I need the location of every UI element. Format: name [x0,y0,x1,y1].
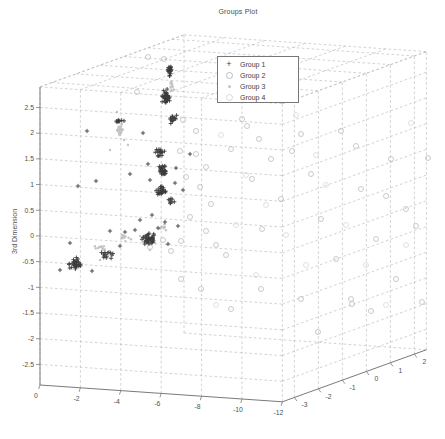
svg-text:1: 1 [30,181,34,188]
legend-entry-group-1: + Group 1 [218,59,298,70]
svg-text:-12: -12 [273,409,283,416]
svg-text:-3: -3 [301,401,307,408]
svg-text:2: 2 [30,129,34,136]
data-points-group-4 [214,113,414,308]
svg-text:-4: -4 [114,398,120,405]
z-axis-label: 3rd Dimension [11,182,18,282]
legend-label-group-3: Group 3 [240,83,265,90]
legend-circle-marker-icon [221,94,237,101]
svg-text:0: 0 [34,392,38,399]
legend-label-group-2: Group 2 [240,72,265,79]
svg-text:-8: -8 [195,403,201,410]
svg-text:-1: -1 [28,284,34,291]
svg-text:-10: -10 [233,406,243,413]
svg-text:-2: -2 [325,393,331,400]
figure-window: Groups Plot 2.521.510.50-0.5-1-1.5-2-2.5… [0,0,445,439]
svg-text:2: 2 [423,358,427,365]
legend-label-group-4: Group 4 [240,94,265,101]
z-axis-ticks: 2.521.510.50-0.5-1-1.5-2-2.5 [22,104,40,368]
svg-text:-1: -1 [349,384,355,391]
svg-text:-6: -6 [154,400,160,407]
svg-text:-2.5: -2.5 [22,361,34,368]
legend-label-group-1: Group 1 [240,61,265,68]
axis-lines [40,87,426,402]
svg-text:-1.5: -1.5 [22,309,34,316]
legend-box: + Group 1 Group 2 Group 3 Group 4 [217,56,299,103]
svg-text:-0.5: -0.5 [22,258,34,265]
svg-text:2.5: 2.5 [25,104,35,111]
legend-dot-marker-icon [221,85,237,88]
svg-text:0: 0 [375,375,379,382]
svg-text:-2: -2 [28,335,34,342]
legend-plus-marker-icon: + [221,60,237,69]
svg-text:1.5: 1.5 [25,155,35,162]
svg-text:0: 0 [30,232,34,239]
legend-entry-group-2: Group 2 [218,70,298,81]
y-axis-ticks: -3-2-1012 [294,354,426,408]
svg-text:1: 1 [399,367,403,374]
x-axis-ticks: 0-2-4-6-8-10-12 [34,385,283,416]
svg-text:0.5: 0.5 [25,207,35,214]
legend-entry-group-4: Group 4 [218,92,298,103]
svg-text:-2: -2 [73,395,79,402]
legend-entry-group-3: Group 3 [218,81,298,92]
legend-circle-marker-icon [221,72,237,79]
